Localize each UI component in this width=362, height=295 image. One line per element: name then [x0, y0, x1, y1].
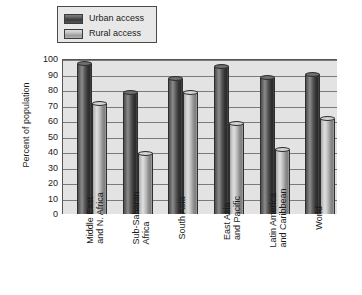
legend-item-rural-access: Rural access: [64, 26, 151, 41]
bar-cap: [320, 116, 335, 121]
y-tick-label: 10: [28, 195, 58, 204]
x-label-group: South Asia: [154, 218, 200, 293]
bar-group: [63, 60, 109, 214]
bar-cap: [229, 121, 244, 126]
plot-area: [62, 59, 337, 214]
x-tick-label: Sub-SaharanAfrica: [131, 191, 151, 244]
y-tick-label: 30: [28, 164, 58, 173]
bar-urban: [168, 79, 183, 214]
bar-cap: [168, 76, 183, 81]
x-tick-label: Latin Americaand Caribbean: [268, 188, 288, 247]
bar-cap: [123, 90, 138, 95]
y-tick-label: 60: [28, 117, 58, 126]
x-axis-tick-labels: Middle Eastand N. AfricaSub-SaharanAfric…: [62, 218, 337, 293]
bar-groups: [63, 60, 337, 214]
bar-cap: [305, 72, 320, 77]
bar-group: [291, 60, 337, 214]
bar-chart: Urban access Rural access Percent of pop…: [0, 0, 362, 295]
bar-cap: [77, 61, 92, 66]
legend-swatch-urban-icon: [64, 14, 83, 24]
chart-legend: Urban access Rural access: [57, 6, 157, 43]
bar-group: [200, 60, 246, 214]
x-label-group: Middle Eastand N. Africa: [62, 218, 108, 293]
bar-cap: [214, 64, 229, 69]
legend-label-urban-access: Urban access: [89, 14, 144, 23]
bar-group: [154, 60, 200, 214]
x-label-group: Latin Americaand Caribbean: [245, 218, 291, 293]
y-tick-label: 50: [28, 133, 58, 142]
bar-cap: [92, 101, 107, 106]
bar-urban: [214, 67, 229, 214]
bar-cap: [260, 75, 275, 80]
x-tick-label: Middle Eastand N. Africa: [85, 192, 105, 244]
y-tick-label: 40: [28, 148, 58, 157]
y-tick-label: 90: [28, 71, 58, 80]
legend-swatch-rural-icon: [64, 29, 83, 39]
y-tick-label: 80: [28, 86, 58, 95]
legend-item-urban-access: Urban access: [64, 11, 151, 26]
y-tick-label: 20: [28, 179, 58, 188]
bar-urban: [305, 75, 320, 215]
x-label-group: Sub-SaharanAfrica: [108, 218, 154, 293]
x-tick-label: World: [314, 206, 324, 229]
x-label-group: East Asiaand Pacific: [199, 218, 245, 293]
x-tick-label: East Asiaand Pacific: [222, 196, 242, 240]
bar-rural: [320, 119, 335, 214]
bar-cap: [275, 147, 290, 152]
bar-cap: [183, 90, 198, 95]
x-tick-label: South Asia: [177, 196, 187, 239]
legend-label-rural-access: Rural access: [89, 29, 141, 38]
bar-cap: [138, 151, 153, 156]
x-label-group: World: [291, 218, 337, 293]
y-tick-label: 70: [28, 102, 58, 111]
y-tick-label: 0: [28, 210, 58, 219]
y-tick-label: 100: [28, 55, 58, 64]
